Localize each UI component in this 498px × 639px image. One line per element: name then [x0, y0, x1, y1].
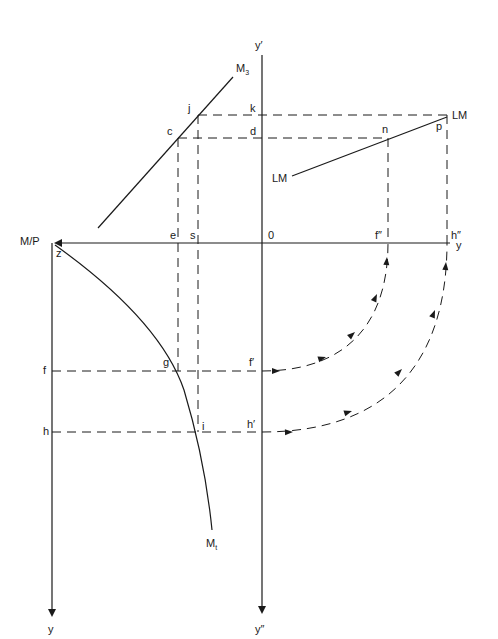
mt-curve	[55, 245, 212, 530]
label-y-bottom-left: y	[48, 624, 54, 635]
point-f-double-prime: f″	[375, 230, 382, 241]
label-y-right: y	[456, 240, 462, 251]
arc-h1-h2	[262, 243, 447, 432]
lm-line	[292, 117, 447, 176]
point-k: k	[250, 103, 256, 114]
point-n: n	[382, 124, 388, 135]
m3-line	[98, 77, 233, 228]
label-y-prime: y′	[255, 40, 263, 51]
point-i: i	[202, 421, 204, 432]
point-d: d	[250, 126, 256, 137]
label-origin: 0	[268, 230, 274, 241]
label-mt: Mt	[206, 538, 217, 551]
point-z: z	[56, 248, 62, 259]
diagram-canvas	[0, 0, 498, 639]
point-s: s	[190, 230, 196, 241]
point-h-double-prime: h″	[451, 230, 461, 241]
point-f-prime: f′	[249, 357, 254, 368]
label-lm-top: LM	[452, 110, 467, 121]
label-m-over-p: M/P	[20, 236, 40, 247]
point-c: c	[167, 126, 173, 137]
label-lm-left: LM	[272, 173, 287, 184]
point-f: f	[43, 365, 46, 376]
point-h: h	[43, 426, 49, 437]
arc-f1-f2	[262, 243, 388, 371]
point-g: g	[163, 357, 169, 368]
label-m3: M3	[236, 63, 249, 76]
point-j: j	[188, 103, 190, 114]
point-p: p	[436, 121, 442, 132]
label-y-double-prime: y″	[255, 624, 264, 635]
point-e: e	[170, 230, 176, 241]
point-h-prime: h′	[247, 419, 255, 430]
